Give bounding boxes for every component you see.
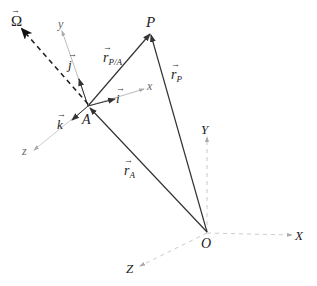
- i-symbol: i: [116, 92, 120, 105]
- k-symbol: k: [57, 118, 63, 131]
- axis-x-label: x: [147, 80, 152, 92]
- diagram-canvas: [0, 0, 317, 286]
- r-P-label: rP: [171, 68, 182, 82]
- point-O-label: O: [201, 237, 211, 251]
- point-P-label: P: [146, 15, 155, 30]
- r-A-label: rA: [124, 164, 135, 178]
- axis-z-label: z: [22, 145, 27, 157]
- unit-k-label: k: [57, 118, 63, 131]
- unit-i-arrow: [88, 99, 115, 106]
- r-A-subscript: A: [129, 170, 135, 180]
- omega-symbol: Ω: [11, 14, 22, 29]
- axis-y-label: y: [58, 18, 63, 30]
- unit-i-label: i: [116, 92, 120, 105]
- axis-X-label: X: [295, 229, 303, 242]
- omega-label: Ω: [11, 14, 22, 29]
- r-PA-label: rP/A: [103, 51, 122, 65]
- point-A-label: A: [82, 113, 91, 127]
- global-axes: [140, 137, 292, 266]
- axis-X-line: [207, 233, 292, 235]
- j-symbol: j: [68, 58, 72, 71]
- unit-j-label: j: [68, 58, 72, 71]
- axis-Y-label: Y: [201, 123, 208, 136]
- kinematics-diagram: Ω y j i x k A z P rP/A rP rA Y O X Z: [0, 0, 317, 286]
- axis-Z-label: Z: [126, 262, 133, 275]
- axis-Z-line: [140, 233, 207, 266]
- r-P-subscript: P: [176, 74, 182, 84]
- local-axes: [34, 31, 144, 150]
- r-PA-subscript: P/A: [108, 57, 122, 67]
- omega-vector-line: [22, 29, 88, 104]
